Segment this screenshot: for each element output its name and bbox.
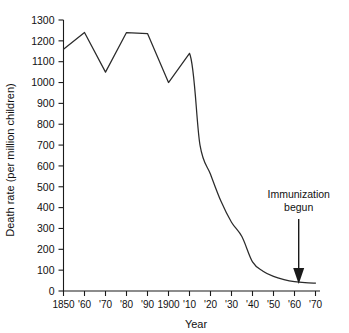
y-tick-label: 400 [37, 201, 55, 213]
y-tick-label: 1000 [31, 76, 55, 88]
y-tick-label: 1300 [31, 14, 55, 26]
x-tick-label: '70 [309, 299, 322, 310]
x-tick-label: '70 [99, 299, 112, 310]
y-tick-label: 700 [37, 139, 55, 151]
y-tick-label: 300 [37, 222, 55, 234]
y-tick-label: 800 [37, 118, 55, 130]
y-tick-label: 500 [37, 181, 55, 193]
y-tick-label: 100 [37, 264, 55, 276]
death-rate-line [64, 33, 316, 284]
y-axis-title: Death rate (per million children) [4, 83, 16, 236]
x-tick-label: '30 [225, 299, 238, 310]
y-tick-label: 1200 [31, 35, 55, 47]
annotation-label-line1: Immunization [267, 188, 330, 200]
x-tick-label: '50 [267, 299, 280, 310]
x-tick-label: 1850 [52, 299, 75, 310]
y-tick-label: 200 [37, 243, 55, 255]
chart-container: 0100200300400500600700800900100011001200… [0, 0, 349, 333]
y-tick-label: 900 [37, 97, 55, 109]
x-tick-label: '20 [204, 299, 217, 310]
x-tick-label: '40 [246, 299, 259, 310]
x-tick-label: '90 [141, 299, 154, 310]
line-chart: 0100200300400500600700800900100011001200… [0, 0, 349, 333]
annotation-label-line2: begun [284, 201, 313, 213]
y-tick-label: 600 [37, 160, 55, 172]
x-tick-label: '60 [78, 299, 91, 310]
y-tick-label: 1100 [32, 55, 55, 67]
x-tick-label: '60 [288, 299, 301, 310]
y-tick-label: 0 [49, 285, 55, 297]
y-axis-ticks: 0100200300400500600700800900100011001200… [31, 14, 63, 297]
x-tick-label: 1900 [157, 299, 180, 310]
immunization-annotation: Immunization begun [267, 188, 330, 284]
x-axis-ticks: 1850'60'70'80'901900'10'20'30'40'50'60'7… [52, 291, 322, 310]
x-axis-title: Year [185, 318, 208, 330]
x-tick-label: '80 [120, 299, 133, 310]
x-tick-label: '10 [183, 299, 196, 310]
